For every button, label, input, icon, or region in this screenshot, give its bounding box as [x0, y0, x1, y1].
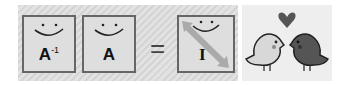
matrix-label: I [179, 45, 233, 65]
identity-matrix: I [177, 15, 235, 73]
love-birds-illustration [242, 5, 332, 81]
equals-sign: = [150, 33, 165, 64]
matrix-a-inverse: A-1 [22, 15, 76, 73]
equation-panel: A-1 A = I [18, 5, 238, 81]
matrix-a: A [82, 15, 136, 73]
birds-heart-icon [242, 5, 332, 81]
matrix-label: A-1 [24, 45, 74, 65]
matrix-label: A [84, 45, 134, 65]
